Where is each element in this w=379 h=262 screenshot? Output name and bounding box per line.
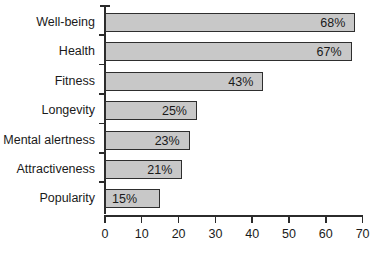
bar-row: 15%: [105, 184, 363, 213]
bar-value-label: 23%: [155, 132, 180, 151]
x-axis-tick: [141, 216, 143, 223]
bar-row: 67%: [105, 37, 363, 66]
bar-value-label: 43%: [228, 73, 253, 92]
x-axis-tick: [104, 216, 106, 223]
bar-value-label: 15%: [112, 190, 137, 209]
x-axis-tick: [251, 216, 253, 223]
x-axis-tick-label-10: 10: [135, 227, 149, 241]
bar-attractiveness[interactable]: 21%: [105, 160, 182, 179]
bar-value-label: 68%: [320, 14, 345, 33]
x-axis-tick: [215, 216, 217, 223]
bar-popularity[interactable]: 15%: [105, 189, 160, 208]
x-axis-tick-label-50: 50: [282, 227, 296, 241]
x-axis-tick-label-70: 70: [356, 227, 370, 241]
x-axis-tick: [325, 216, 327, 223]
x-axis-tick-label-20: 20: [172, 227, 186, 241]
x-axis-tick-label-40: 40: [245, 227, 259, 241]
x-axis-tick-label-0: 0: [102, 227, 109, 241]
bar-health[interactable]: 67%: [105, 42, 352, 61]
x-axis-tick: [288, 216, 290, 223]
bar-row: 43%: [105, 67, 363, 96]
bar-value-label: 25%: [162, 102, 187, 121]
bar-row: 68%: [105, 8, 363, 37]
y-axis-label-attractiveness: Attractiveness: [16, 155, 95, 184]
bar-row: 25%: [105, 96, 363, 125]
x-axis-tick: [178, 216, 180, 223]
bar-fitness[interactable]: 43%: [105, 72, 263, 91]
y-axis-label-popularity: Popularity: [39, 184, 95, 213]
bar-chart: Well-being Health Fitness Longevity Ment…: [0, 0, 379, 262]
x-axis-tick-label-60: 60: [319, 227, 333, 241]
x-axis-tick: [362, 216, 364, 223]
bar-row: 21%: [105, 155, 363, 184]
x-axis-tick-label-30: 30: [208, 227, 222, 241]
bar-well-being[interactable]: 68%: [105, 13, 355, 32]
plot-area: 68% 67% 43% 25% 23% 21%: [105, 8, 363, 214]
y-axis-label-fitness: Fitness: [55, 67, 95, 96]
y-axis-top-cap: [100, 5, 110, 7]
y-axis-label-longevity: Longevity: [41, 96, 95, 125]
bar-longevity[interactable]: 25%: [105, 101, 197, 120]
y-axis-label-mental-alertness: Mental alertness: [3, 126, 95, 155]
y-axis-category-labels: Well-being Health Fitness Longevity Ment…: [0, 8, 101, 214]
bar-row: 23%: [105, 126, 363, 155]
bar-value-label: 21%: [147, 161, 172, 180]
bar-value-label: 67%: [317, 43, 342, 62]
y-axis-label-health: Health: [59, 37, 95, 66]
y-axis-label-well-being: Well-being: [36, 8, 95, 37]
bar-mental-alertness[interactable]: 23%: [105, 131, 190, 150]
